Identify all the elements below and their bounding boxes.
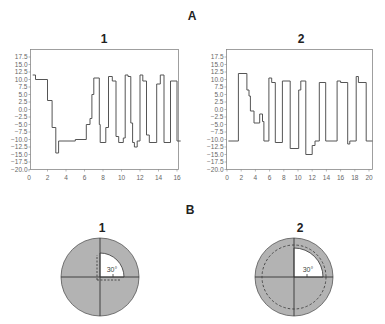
svg-text:−2.5: −2.5 — [15, 113, 28, 120]
svg-text:15.0: 15.0 — [15, 61, 28, 68]
chart-1-series-line — [33, 75, 181, 153]
svg-text:−10.0: −10.0 — [207, 136, 224, 143]
svg-text:12: 12 — [309, 174, 317, 181]
svg-text:8: 8 — [101, 174, 105, 181]
svg-text:5.0: 5.0 — [214, 91, 223, 98]
svg-text:−5.0: −5.0 — [15, 121, 28, 128]
svg-text:14: 14 — [155, 174, 163, 181]
svg-text:12.5: 12.5 — [15, 68, 28, 75]
svg-text:12: 12 — [136, 174, 144, 181]
chart-1-x-axis: 0246810121416 — [27, 170, 181, 181]
diagram-1-angle-label: 30° — [107, 266, 118, 273]
svg-text:−17.5: −17.5 — [11, 158, 28, 165]
svg-text:10.0: 10.0 — [211, 76, 224, 83]
diagram-2: 2 30° — [255, 221, 333, 316]
svg-text:−12.5: −12.5 — [207, 143, 224, 150]
chart-2-title: 2 — [298, 32, 305, 46]
svg-text:4: 4 — [254, 174, 258, 181]
svg-text:12.5: 12.5 — [211, 68, 224, 75]
chart-2-y-axis: 17.515.012.510.07.55.02.50.0−2.5−5.0−7.5… — [207, 53, 226, 173]
svg-text:17.5: 17.5 — [15, 53, 28, 60]
chart-2-x-axis: 02468101214161820 — [225, 170, 373, 181]
svg-text:−2.5: −2.5 — [211, 113, 224, 120]
svg-text:−20.0: −20.0 — [207, 166, 224, 173]
svg-text:0.0: 0.0 — [214, 106, 223, 113]
svg-text:2: 2 — [239, 174, 243, 181]
svg-text:2: 2 — [46, 174, 50, 181]
svg-text:−7.5: −7.5 — [15, 128, 28, 135]
chart-1-y-axis: 17.515.012.510.07.55.02.50.0−2.5−5.0−7.5… — [11, 53, 30, 173]
svg-text:10.0: 10.0 — [15, 76, 28, 83]
svg-text:20: 20 — [365, 174, 373, 181]
svg-text:−5.0: −5.0 — [211, 121, 224, 128]
svg-text:7.5: 7.5 — [18, 83, 27, 90]
chart-2-plot-frame — [227, 50, 373, 170]
svg-text:14: 14 — [323, 174, 331, 181]
svg-text:−15.0: −15.0 — [207, 151, 224, 158]
svg-text:6: 6 — [268, 174, 272, 181]
svg-text:15.0: 15.0 — [211, 61, 224, 68]
step-chart-2: 2 17.515.012.510.07.55.02.50.0−2.5−5.0−7… — [207, 32, 373, 181]
panel-label-b: B — [186, 203, 195, 217]
svg-text:18: 18 — [351, 174, 359, 181]
svg-text:10: 10 — [118, 174, 126, 181]
svg-text:4: 4 — [64, 174, 68, 181]
svg-text:7.5: 7.5 — [214, 83, 223, 90]
chart-1-title: 1 — [101, 32, 108, 46]
svg-text:10: 10 — [294, 174, 302, 181]
svg-text:−12.5: −12.5 — [11, 143, 28, 150]
svg-text:−17.5: −17.5 — [207, 158, 224, 165]
svg-text:6: 6 — [83, 174, 87, 181]
svg-text:0: 0 — [225, 174, 229, 181]
svg-text:8: 8 — [282, 174, 286, 181]
svg-text:17.5: 17.5 — [211, 53, 224, 60]
svg-text:0: 0 — [27, 174, 31, 181]
svg-text:0.0: 0.0 — [18, 106, 27, 113]
svg-text:16: 16 — [173, 174, 181, 181]
svg-text:2.5: 2.5 — [214, 98, 223, 105]
panel-label-a: A — [188, 9, 197, 23]
diagram-2-title: 2 — [297, 221, 304, 235]
svg-text:−20.0: −20.0 — [11, 166, 28, 173]
diagram-2-angle-label: 30° — [303, 266, 314, 273]
figure-canvas: A B 1 17.515.012.510.07.55.02.50.0−2.5−5… — [0, 0, 385, 324]
diagram-1: 1 30° — [61, 221, 139, 316]
svg-text:16: 16 — [337, 174, 345, 181]
chart-2-series-line — [228, 74, 372, 155]
svg-text:−7.5: −7.5 — [211, 128, 224, 135]
svg-text:−10.0: −10.0 — [11, 136, 28, 143]
svg-text:−15.0: −15.0 — [11, 151, 28, 158]
svg-text:2.5: 2.5 — [18, 98, 27, 105]
svg-text:5.0: 5.0 — [18, 91, 27, 98]
diagram-1-title: 1 — [99, 221, 106, 235]
step-chart-1: 1 17.515.012.510.07.55.02.50.0−2.5−5.0−7… — [11, 32, 181, 181]
